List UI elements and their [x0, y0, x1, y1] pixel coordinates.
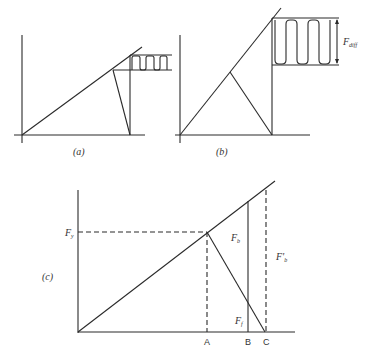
panel-a: (a) — [14, 35, 172, 158]
panel-a-caption: (a) — [73, 146, 85, 158]
diagram-canvas: (a) Fdiff (b) Fy Fb F'b Ff A B C (c) — [0, 0, 367, 352]
arrow-up-icon — [335, 19, 339, 24]
label-f-y: Fy — [64, 227, 74, 239]
label-f-b-prime: F'b — [275, 251, 287, 263]
label-f-diff: Fdiff — [342, 36, 358, 48]
panel-b-rise-line — [180, 8, 281, 135]
tick-a: A — [204, 337, 210, 347]
panel-b-oscillation — [275, 20, 330, 64]
panel-b-drop-line — [230, 72, 272, 135]
tick-b: B — [245, 337, 251, 347]
label-f-f: Ff — [234, 315, 244, 327]
tick-c: C — [263, 337, 270, 347]
panel-a-rise-line — [22, 47, 142, 135]
label-f-b: Fb — [230, 232, 240, 244]
panel-c-rise-line — [78, 181, 275, 332]
panel-b-caption: (b) — [216, 146, 228, 158]
panel-c: Fy Fb F'b Ff A B C (c) — [42, 181, 295, 347]
arrow-down-icon — [335, 59, 339, 64]
panel-c-caption: (c) — [42, 271, 54, 283]
panel-a-oscillation — [132, 56, 167, 70]
panel-b: Fdiff (b) — [175, 8, 358, 158]
panel-a-drop-line — [113, 70, 130, 135]
